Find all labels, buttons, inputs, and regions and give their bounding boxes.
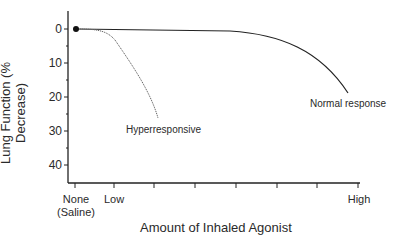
series-normal-response: [76, 29, 348, 93]
annotation-normal-response: Normal response: [310, 98, 386, 109]
y-tick-30: 30: [38, 124, 62, 138]
y-tick-20: 20: [38, 90, 62, 104]
y-tick-0: 0: [38, 22, 62, 36]
y-tick-10: 10: [38, 56, 62, 70]
x-axis-label: Amount of Inhaled Agonist: [140, 220, 292, 235]
y-axis-label: Lung Function (% Decrease): [0, 38, 28, 188]
x-ticks: [75, 183, 358, 188]
x-tick-none-sub: (Saline): [56, 206, 96, 218]
y-tick-40: 40: [38, 158, 62, 172]
x-tick-low: Low: [100, 193, 128, 205]
series-hyperresponsive: [80, 29, 158, 118]
x-tick-high: High: [344, 193, 374, 205]
x-tick-none: None: [60, 193, 92, 205]
annotation-hyperresponsive: Hyperresponsive: [126, 124, 201, 135]
origin-point: [73, 26, 79, 32]
